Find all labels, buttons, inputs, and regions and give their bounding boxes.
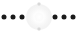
dot-1[interactable] bbox=[2, 14, 7, 19]
dot-row-indicator bbox=[0, 0, 77, 33]
center-core-highlight bbox=[34, 12, 43, 21]
tick-mark-bottom bbox=[37, 28, 40, 31]
dot-2[interactable] bbox=[11, 14, 16, 19]
tick-mark-top bbox=[37, 3, 40, 6]
dot-6[interactable] bbox=[71, 14, 76, 19]
dot-5[interactable] bbox=[62, 14, 67, 19]
dot-3[interactable] bbox=[20, 14, 25, 19]
dot-4[interactable] bbox=[53, 14, 58, 19]
